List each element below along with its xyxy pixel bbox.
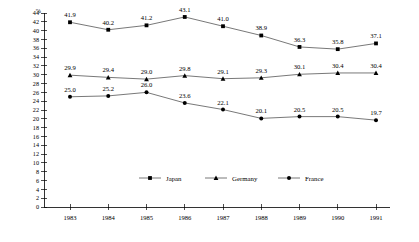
x-tick-label: 1986 — [178, 214, 192, 221]
data-point-france-1983 — [68, 95, 72, 99]
data-point-japan-1985 — [145, 23, 149, 27]
data-label-japan-1988: 38.9 — [255, 24, 267, 31]
x-tick-label: 1985 — [140, 214, 154, 221]
data-label-japan-1984: 40.2 — [102, 19, 114, 26]
data-label-japan-1989: 36.3 — [294, 36, 306, 43]
y-tick-label: 28 — [33, 80, 39, 87]
y-tick-label: 34 — [33, 53, 39, 60]
legend-label-germany: Germany — [232, 175, 258, 182]
data-point-japan-1987 — [221, 24, 225, 28]
data-label-france-1983: 25.0 — [64, 86, 76, 93]
y-tick-label: 26 — [33, 89, 39, 96]
data-point-japan-1991 — [374, 42, 378, 46]
data-label-france-1991: 19.7 — [370, 109, 382, 116]
x-tick-label: 1987 — [216, 214, 230, 221]
data-point-france-1984 — [106, 94, 110, 98]
data-point-france-1989 — [298, 115, 302, 119]
x-tick-label: 1990 — [331, 214, 345, 221]
data-point-france-1987 — [221, 108, 225, 112]
data-point-france-1985 — [145, 90, 149, 94]
data-label-germany-1984: 29.4 — [102, 66, 114, 73]
data-label-france-1986: 23.6 — [179, 92, 191, 99]
line-chart: % 02468101214161820222426283032343638404… — [0, 0, 419, 242]
data-label-germany-1983: 29.9 — [64, 64, 76, 71]
y-tick-label: 40 — [33, 27, 39, 34]
y-tick-label: 38 — [33, 36, 39, 43]
legend-item-germany[interactable]: Germany — [205, 175, 258, 182]
y-tick-label: 24 — [33, 97, 39, 104]
x-axis-labels: 198319841985198619871988198919901991 — [63, 214, 382, 221]
data-label-japan-1991: 37.1 — [370, 32, 382, 39]
data-label-germany-1989: 30.1 — [294, 63, 306, 70]
x-tick-label: 1989 — [293, 214, 307, 221]
y-tick-label: 10 — [33, 159, 39, 166]
data-label-japan-1986: 43.1 — [179, 6, 191, 13]
data-label-germany-1991: 30.4 — [370, 62, 382, 69]
data-label-france-1984: 25.2 — [102, 85, 114, 92]
legend-marker-japan — [148, 176, 152, 180]
y-tick-label: 20 — [33, 115, 39, 122]
legend-marker-france — [287, 176, 291, 180]
data-label-france-1990: 20.5 — [332, 106, 344, 113]
data-point-france-1991 — [374, 118, 378, 122]
data-point-france-1990 — [336, 115, 340, 119]
data-point-japan-1990 — [336, 47, 340, 51]
data-label-france-1988: 20.1 — [255, 107, 267, 114]
legend-label-france: France — [305, 175, 324, 182]
y-tick-label: 30 — [33, 71, 39, 78]
data-point-japan-1986 — [183, 15, 187, 19]
y-tick-label: 2 — [36, 194, 39, 201]
x-tick-label: 1983 — [63, 214, 77, 221]
chart-canvas: % 02468101214161820222426283032343638404… — [0, 0, 419, 242]
y-tick-label: 12 — [33, 150, 39, 157]
y-tick-label: 16 — [33, 133, 39, 140]
y-tick-label: 0 — [36, 203, 39, 210]
data-point-japan-1988 — [259, 34, 263, 38]
data-label-germany-1985: 29.0 — [141, 68, 153, 75]
data-label-japan-1990: 35.8 — [332, 38, 344, 45]
data-point-japan-1983 — [68, 20, 72, 24]
y-tick-label: 18 — [33, 124, 39, 131]
legend-item-france[interactable]: France — [278, 175, 324, 182]
y-tick-label: 36 — [33, 44, 39, 51]
data-label-france-1989: 20.5 — [294, 106, 306, 113]
data-label-france-1985: 26.0 — [141, 81, 153, 88]
y-tick-label: 22 — [33, 106, 39, 113]
legend-item-japan[interactable]: Japan — [139, 175, 182, 182]
y-axis-labels: 0246810121416182022242628303234363840424… — [33, 9, 39, 210]
chart-legend: JapanGermanyFrance — [139, 175, 324, 182]
data-point-japan-1989 — [298, 45, 302, 49]
data-label-layer: 41.940.241.243.141.038.936.335.837.129.9… — [64, 6, 382, 116]
y-tick-label: 44 — [33, 9, 39, 16]
data-label-japan-1987: 41.0 — [217, 15, 229, 22]
y-tick-label: 42 — [33, 18, 39, 25]
data-label-france-1987: 22.1 — [217, 99, 229, 106]
data-label-germany-1986: 29.8 — [179, 65, 191, 72]
data-point-france-1986 — [183, 101, 187, 105]
y-tick-label: 4 — [36, 186, 39, 193]
series-line-france — [70, 92, 376, 120]
x-tick-label: 1988 — [255, 214, 269, 221]
y-tick-label: 32 — [33, 62, 39, 69]
x-tick-label: 1984 — [102, 214, 116, 221]
y-tick-label: 6 — [36, 177, 39, 184]
data-label-germany-1988: 29.3 — [255, 67, 267, 74]
data-point-japan-1984 — [106, 28, 110, 32]
legend-label-japan: Japan — [166, 175, 182, 182]
x-tick-label: 1991 — [369, 214, 382, 221]
data-label-germany-1987: 29.1 — [217, 68, 229, 75]
y-tick-label: 8 — [36, 168, 39, 175]
data-label-germany-1990: 30.4 — [332, 62, 344, 69]
y-tick-label: 14 — [33, 141, 39, 148]
data-point-france-1988 — [259, 116, 263, 120]
data-label-japan-1985: 41.2 — [141, 14, 153, 21]
data-label-japan-1983: 41.9 — [64, 11, 76, 18]
